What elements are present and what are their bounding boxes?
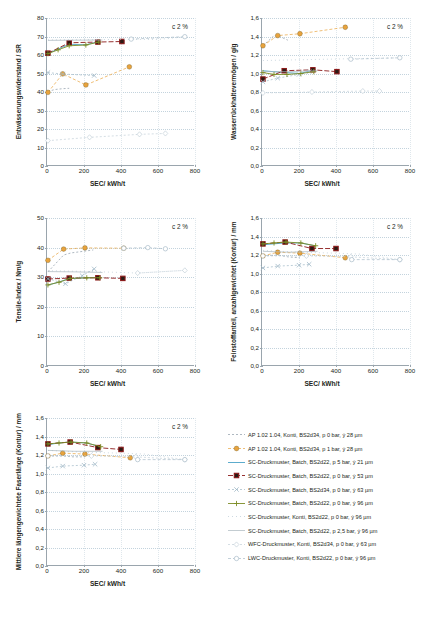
x-tick-label: 600 (153, 568, 163, 574)
series-layer (47, 18, 195, 166)
x-tick-label: 200 (79, 168, 89, 174)
x-tick-label: 400 (331, 368, 341, 374)
panel-annotation: c 2 % (387, 223, 403, 230)
legend-item[interactable]: LWC-Druckmuster, Konti, BS2d22, p 0 bar,… (228, 551, 428, 565)
legend-label: SC-Druckmuster, Batch, BS2d22, p 2,5 bar… (248, 528, 377, 534)
y-tick-label: 1,6 (35, 415, 44, 421)
x-tick-label: 800 (405, 368, 415, 374)
legend-item[interactable]: SC-Druckmuster, Batch, BS2d22, p 2,5 bar… (228, 524, 428, 538)
x-tick-label: 400 (116, 568, 126, 574)
y-tick-label: 1,2 (250, 252, 259, 258)
y-tick-label: 10 (37, 144, 44, 150)
y-tick-label: 20 (37, 304, 44, 310)
plot-area: 0,00,20,40,60,81,01,21,41,60200400600800… (261, 18, 409, 166)
y-tick-label: 0,4 (35, 526, 44, 532)
y-tick-label: 0,4 (250, 326, 259, 332)
x-tick-label: 600 (368, 168, 378, 174)
legend-label: LWC-Druckmuster, Konti, BS2d22, p 0 bar,… (248, 555, 375, 561)
x-tick-label: 200 (294, 168, 304, 174)
y-tick-label: 1,6 (250, 15, 259, 21)
y-tick-label: 0,0 (250, 163, 259, 169)
y-tick-label: 10 (37, 333, 44, 339)
x-gridline (195, 18, 196, 165)
x-axis-label: SEC/ kWh/t (0, 380, 215, 387)
x-tick-label: 600 (368, 368, 378, 374)
y-tick-label: 0,2 (250, 144, 259, 150)
legend-marker-icon (228, 458, 245, 467)
legend: AP 1.02 1.04, Konti, BS2d34, p 0 bar, ẏ … (228, 428, 428, 565)
y-tick-label: 0,6 (35, 507, 44, 513)
chart-tensile-index: 010203040500200400600800c 2 %Tensile-Ind… (0, 200, 215, 400)
legend-marker-icon (228, 499, 245, 508)
panel-annotation: c 2 % (172, 23, 188, 30)
chart-faserlaenge: 0,00,20,40,60,81,01,21,41,60200400600800… (0, 400, 215, 615)
x-tick-label: 200 (294, 368, 304, 374)
legend-item[interactable]: AP 1.02 1.04, Konti, BS2d34, p 0 bar, ẏ … (228, 428, 428, 442)
x-tick-label: 400 (116, 168, 126, 174)
legend-label: SC-Druckmuster, Batch, BS2d22, p 0 bar, … (248, 473, 373, 479)
legend-marker-icon (228, 526, 245, 535)
x-tick-label: 200 (79, 368, 89, 374)
legend-item[interactable]: SC-Druckmuster, Batch, BS2d22, p 5 bar, … (228, 455, 428, 469)
panel-annotation: c 2 % (387, 23, 403, 30)
y-tick-label: 0,6 (250, 307, 259, 313)
y-tick-label: 60 (37, 52, 44, 58)
x-tick-label: 200 (79, 568, 89, 574)
x-tick-label: 800 (190, 168, 200, 174)
y-tick-label: 0,2 (250, 344, 259, 350)
figure-grid: 010203040506070800200400600800c 2 %Entwä… (0, 0, 429, 624)
y-tick-label: 1,0 (250, 70, 259, 76)
x-tick-label: 400 (116, 368, 126, 374)
legend-label: AP 1.02 1.04, Konti, BS2d34, p 1 bar, ẏ … (248, 446, 362, 452)
legend-marker-icon (228, 512, 245, 521)
legend-item[interactable]: SC-Druckmuster, Batch, BS2d22, p 0 bar, … (228, 496, 428, 510)
series-layer (47, 418, 195, 566)
x-gridline (410, 18, 411, 165)
y-tick-label: 1,2 (35, 452, 44, 458)
chart-entwaesserungswiderstand: 010203040506070800200400600800c 2 %Entwä… (0, 0, 215, 200)
legend-label: SC-Druckmuster, Batch, BS2d22, p 0 bar, … (248, 500, 373, 506)
legend-marker-icon (228, 540, 245, 549)
x-tick-label: 600 (153, 168, 163, 174)
plot-area: 0,00,20,40,60,81,01,21,41,60200400600800… (46, 418, 194, 566)
x-axis-label: SEC/ kWh/t (215, 180, 429, 187)
x-axis-label: SEC/ kWh/t (0, 180, 215, 187)
legend-label: SC-Druckmuster, Batch, BS2d22, p 5 bar, … (248, 459, 373, 465)
chart-feinstoffanteil: 0,00,20,40,60,81,01,21,41,60200400600800… (215, 200, 429, 400)
y-tick-label: 40 (37, 89, 44, 95)
legend-marker-icon (228, 485, 245, 494)
legend-label: WFC-Druckmuster, Konti, BS2d34, p 0 bar,… (248, 541, 376, 547)
y-tick-label: 0,0 (35, 563, 44, 569)
y-tick-label: 1,6 (250, 215, 259, 221)
series-layer (47, 218, 195, 366)
x-gridline (195, 218, 196, 365)
x-tick-label: 0 (45, 368, 48, 374)
legend-item[interactable]: SC-Druckmuster, Batch, BS2d22, p 0 bar, … (228, 469, 428, 483)
legend-marker-icon (228, 444, 245, 453)
y-tick-label: 0,0 (250, 363, 259, 369)
legend-label: AP 1.02 1.04, Konti, BS2d34, p 0 bar, ẏ … (248, 432, 362, 438)
x-tick-label: 800 (405, 168, 415, 174)
legend-item[interactable]: SC-Druckmuster, Konti, BS2d22, p 0 bar, … (228, 510, 428, 524)
legend-marker-icon (228, 471, 245, 480)
y-tick-label: 1,4 (250, 233, 259, 239)
legend-item[interactable]: SC-Druckmuster, Batch, BS2d34, p 0 bar, … (228, 483, 428, 497)
legend-item[interactable]: AP 1.02 1.04, Konti, BS2d34, p 1 bar, ẏ … (228, 442, 428, 456)
y-tick-label: 20 (37, 126, 44, 132)
series-layer (262, 18, 410, 166)
y-tick-label: 50 (37, 215, 44, 221)
y-tick-label: 1,2 (250, 52, 259, 58)
x-tick-label: 0 (45, 168, 48, 174)
x-tick-label: 600 (153, 368, 163, 374)
x-axis-label: SEC/ kWh/t (215, 380, 429, 387)
chart-wasserrueckhaltevermoegen: 0,00,20,40,60,81,01,21,41,60200400600800… (215, 0, 429, 200)
y-tick-label: 40 (37, 244, 44, 250)
y-tick-label: 0,8 (250, 89, 259, 95)
plot-area: 010203040506070800200400600800c 2 % (46, 18, 194, 166)
x-tick-label: 0 (260, 368, 263, 374)
y-tick-label: 0,8 (250, 289, 259, 295)
y-axis-label: Tensile-Index / Nm/g (15, 213, 22, 371)
y-tick-label: 0,6 (250, 107, 259, 113)
legend-item[interactable]: WFC-Druckmuster, Konti, BS2d34, p 0 bar,… (228, 538, 428, 552)
y-tick-label: 80 (37, 15, 44, 21)
